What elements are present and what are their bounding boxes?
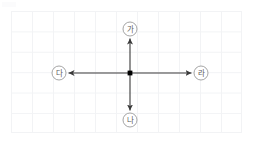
label-right-text: 라: [198, 69, 205, 78]
label-left-text: 다: [56, 69, 63, 78]
label-bubble-right: 라: [194, 66, 208, 80]
diagram-canvas: 가 나 다 라: [0, 0, 256, 144]
label-bubble-left: 다: [52, 66, 66, 80]
label-down-text: 나: [127, 116, 134, 125]
origin-marker: [128, 71, 133, 76]
label-bubble-up: 가: [123, 22, 137, 36]
axes-diagram: 가 나 다 라: [0, 0, 256, 144]
label-bubble-down: 나: [123, 113, 137, 127]
label-up-text: 가: [127, 25, 134, 34]
